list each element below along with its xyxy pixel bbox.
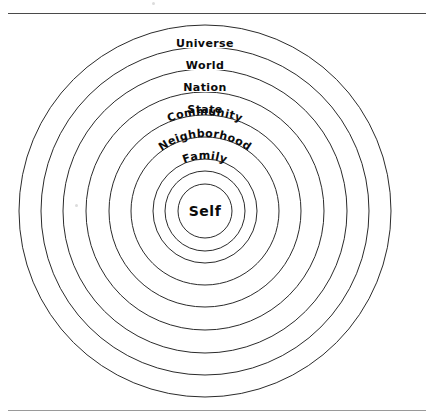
concentric-circles-diagram: Universe World Nation State Community Ne… xyxy=(0,0,434,417)
ring-label-nation: Nation xyxy=(183,81,226,94)
ring-label-family-text: Family xyxy=(181,149,229,166)
page-canvas: Universe World Nation State Community Ne… xyxy=(0,0,434,417)
ring-label-universe: Universe xyxy=(176,37,234,50)
ring-label-self: Self xyxy=(189,203,222,219)
ring-label-family: Family xyxy=(181,149,229,166)
ring-label-world: World xyxy=(186,59,224,72)
